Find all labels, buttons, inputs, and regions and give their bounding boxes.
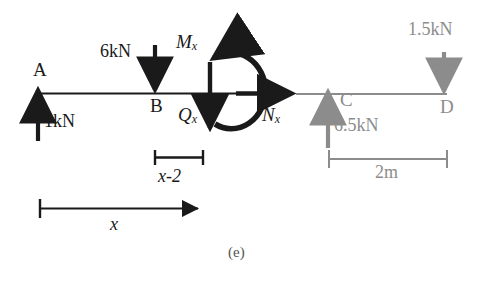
force-label-1kn: 1kN	[44, 112, 75, 130]
shear-label-qx: Qx	[178, 105, 197, 125]
dimension-label-2m: 2m	[375, 163, 398, 181]
free-body-diagram	[0, 0, 502, 292]
point-label-c: C	[340, 90, 353, 109]
moment-label-mx: Mx	[176, 32, 197, 52]
dimension-x	[40, 199, 198, 218]
dimension-x-minus-2	[155, 150, 203, 165]
point-label-a: A	[33, 60, 47, 79]
moment-symbol: M	[176, 31, 192, 52]
dimension-label-x: x	[110, 215, 118, 233]
axial-subscript: x	[275, 112, 280, 126]
dimension-label-x-minus-2: x-2	[158, 167, 181, 185]
axial-symbol: N	[262, 104, 275, 125]
moment-subscript: x	[192, 39, 197, 53]
force-label-6kn: 6kN	[100, 42, 131, 60]
shear-symbol: Q	[178, 104, 192, 125]
point-label-b: B	[150, 96, 163, 115]
point-label-d: D	[440, 97, 454, 116]
force-label-1-5kn: 1.5kN	[408, 20, 453, 38]
force-label-6-5kn: 6.5kN	[334, 116, 379, 134]
figure-caption: (e)	[228, 245, 245, 260]
axial-label-nx: Nx	[262, 105, 280, 125]
shear-subscript: x	[192, 112, 197, 126]
moment-arc-mx	[214, 53, 265, 129]
